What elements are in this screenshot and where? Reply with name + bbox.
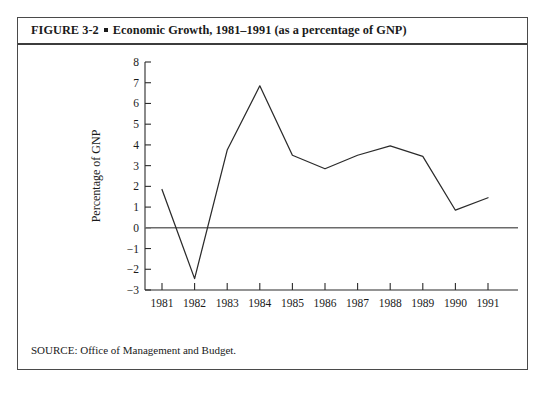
x-tick-label: 1983 [216, 297, 239, 309]
x-tick-label: 1990 [444, 297, 467, 309]
figure-caption-title: Economic Growth, 1981–1991 (as a percent… [113, 23, 407, 37]
y-tick-label: 7 [133, 77, 139, 89]
x-axis: 1981198219831984198519861987198819891990… [145, 283, 518, 309]
y-axis-title-text: Percentage of GNP [89, 129, 103, 222]
y-tick-label: 2 [133, 180, 139, 192]
economic-growth-line-chart: 876543210−1−2−3 198119821983198419851986… [18, 45, 529, 345]
square-bullet-icon [104, 28, 108, 32]
x-tick-label: 1987 [346, 297, 369, 309]
figure-number: FIGURE 3-2 [31, 23, 99, 37]
x-tick-label: 1982 [183, 297, 206, 309]
y-tick-label: 1 [133, 201, 139, 213]
figure-frame: FIGURE 3-2Economic Growth, 1981–1991 (as… [17, 17, 528, 370]
gnp-growth-series [162, 86, 488, 279]
x-tick-label: 1991 [477, 297, 500, 309]
growth-line [162, 86, 488, 279]
y-tick-label: 6 [133, 97, 139, 109]
x-tick-label: 1986 [314, 297, 337, 309]
y-axis-title: Percentage of GNP [89, 129, 103, 222]
y-tick-label: 3 [133, 160, 139, 172]
y-tick-label: 8 [133, 56, 139, 68]
y-tick-label: −2 [127, 263, 139, 275]
y-tick-label: 4 [133, 139, 139, 151]
y-tick-label: 0 [133, 222, 139, 234]
figure-caption: FIGURE 3-2Economic Growth, 1981–1991 (as… [31, 23, 407, 38]
x-tick-label: 1989 [411, 297, 434, 309]
y-tick-label: −1 [127, 243, 139, 255]
chart-plot-area: 876543210−1−2−3 198119821983198419851986… [18, 45, 529, 345]
figure-caption-bar: FIGURE 3-2Economic Growth, 1981–1991 (as… [18, 18, 527, 45]
x-tick-label: 1985 [281, 297, 304, 309]
y-tick-label: −3 [127, 284, 139, 296]
source-note: SOURCE: Office of Management and Budget. [31, 344, 236, 356]
x-tick-label: 1984 [248, 297, 271, 309]
x-tick-label: 1981 [151, 297, 174, 309]
y-axis: 876543210−1−2−3 [127, 56, 151, 296]
x-tick-label: 1988 [379, 297, 402, 309]
y-tick-label: 5 [133, 118, 139, 130]
